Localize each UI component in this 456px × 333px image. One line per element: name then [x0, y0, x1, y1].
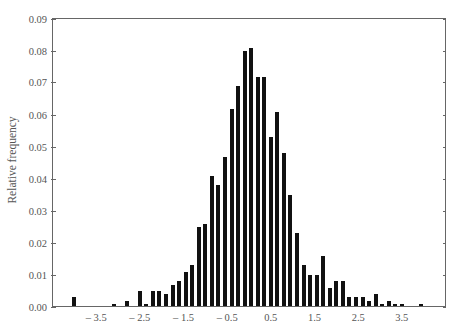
histogram-bar [262, 77, 266, 307]
histogram-bar [230, 109, 234, 307]
x-tick-label: 2.5 [352, 312, 365, 323]
histogram-bar [275, 112, 279, 307]
histogram-bar [236, 86, 240, 307]
histogram-bar [341, 281, 345, 307]
histogram-bar [282, 153, 286, 307]
histogram-bar [328, 288, 332, 307]
y-tick-label: 0.02 [29, 238, 47, 249]
histogram-bar [171, 285, 175, 307]
histogram-bar [164, 294, 168, 307]
histogram-bar [72, 297, 76, 307]
y-tick-label: 0.07 [29, 77, 47, 88]
histogram-bar [157, 291, 161, 307]
histogram-bar [210, 176, 214, 307]
bars-group [72, 48, 443, 307]
y-tick-label: 0.01 [29, 270, 47, 281]
y-tick-label: 0.09 [29, 14, 47, 25]
histogram-bar [347, 297, 351, 307]
x-tick-label: 1.5 [308, 312, 321, 323]
histogram-bar [354, 297, 358, 307]
plot-frame [53, 19, 446, 307]
histogram-bar [361, 297, 365, 307]
histogram-bar [223, 157, 227, 307]
histogram-bar [216, 185, 220, 307]
y-tick-label: 0.00 [29, 302, 47, 313]
x-tick-label: – 1.5 [172, 312, 194, 323]
histogram-bar [249, 48, 253, 307]
histogram-bar [256, 77, 260, 307]
x-tick-label: – 0.5 [216, 312, 238, 323]
x-tick-label: 0.5 [264, 312, 277, 323]
x-tick-label: – 3.5 [85, 312, 107, 323]
y-tick-label: 0.04 [29, 174, 48, 185]
histogram-bar [295, 233, 299, 307]
x-tick-label: – 2.5 [128, 312, 150, 323]
histogram-bar [177, 281, 181, 307]
x-axis-ticks: – 3.5– 2.5– 1.5– 0.50.51.52.53.5 [85, 312, 409, 323]
histogram-bar [374, 294, 378, 307]
histogram-bar [151, 291, 155, 307]
histogram-bar [315, 275, 319, 307]
histogram-bar [288, 195, 292, 307]
y-tick-label: 0.06 [29, 110, 47, 121]
histogram-bar [334, 281, 338, 307]
histogram-bar [203, 224, 207, 307]
x-tick-label: 3.5 [395, 312, 408, 323]
y-tick-label: 0.05 [29, 142, 47, 153]
histogram-bar [302, 265, 306, 307]
histogram-chart: 0.000.010.020.030.040.050.060.070.080.09… [0, 0, 456, 333]
y-axis-title: Relative frequency [6, 116, 19, 203]
histogram-bar [321, 256, 325, 307]
histogram-bar [190, 265, 194, 307]
histogram-bar [138, 291, 142, 307]
histogram-bar [184, 272, 188, 307]
histogram-bar [308, 275, 312, 307]
histogram-bar [269, 137, 273, 307]
histogram-bar [243, 51, 247, 307]
y-tick-label: 0.03 [29, 206, 47, 217]
histogram-bar [197, 227, 201, 307]
y-tick-label: 0.08 [29, 46, 47, 57]
